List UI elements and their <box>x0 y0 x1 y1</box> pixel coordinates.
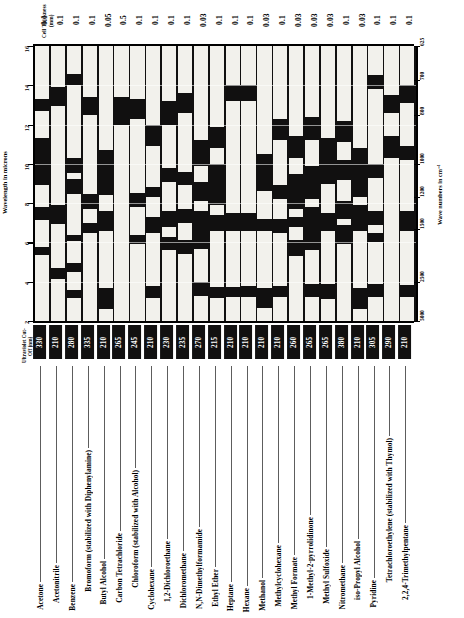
transmission-band <box>305 250 319 283</box>
transmission-band <box>114 46 128 97</box>
cell-thickness-value: 0.1 <box>65 1 81 39</box>
cell-thickness-value: 0.05 <box>97 1 113 39</box>
transmission-band <box>257 46 271 154</box>
transmission-band <box>83 233 97 321</box>
solvent-name: Heptane <box>226 584 235 611</box>
solvent-name: iso-Propyl Alcohol <box>353 541 362 600</box>
leader-line <box>215 366 216 567</box>
transmission-band <box>162 182 176 211</box>
transmission-band <box>400 46 414 85</box>
uv-cutoff-value: 210 <box>144 325 157 359</box>
solvent-name: Pyridine <box>369 580 378 608</box>
cell-thickness-value: 0.1 <box>382 1 398 39</box>
transmission-band <box>353 46 367 148</box>
solvent-column <box>321 46 335 321</box>
transmission-band <box>67 194 81 234</box>
solvent-column <box>241 46 255 321</box>
leader-line <box>183 366 184 551</box>
uv-cutoff-value: 215 <box>208 325 221 359</box>
transmission-band <box>384 46 398 95</box>
transmission-band <box>210 205 224 215</box>
uv-cutoff-value: 330 <box>33 325 46 359</box>
transmission-band <box>273 233 287 286</box>
solvent-name-list: AcetoneAcetonitrileBenzeneBromoform (sta… <box>0 366 464 618</box>
leader-line <box>104 366 105 559</box>
wavelength-tick-label: 16 <box>23 46 30 52</box>
transmission-band <box>99 309 113 321</box>
cell-thickness-value: 0.03 <box>319 1 335 39</box>
transmission-band <box>321 231 335 284</box>
leader-line <box>40 366 41 582</box>
transmission-band <box>384 158 398 321</box>
transmission-band <box>241 231 255 286</box>
uv-cutoff-value: 270 <box>192 325 205 359</box>
cell-thickness-value: 0.1 <box>398 1 414 39</box>
leader-line <box>294 366 295 555</box>
cell-thickness-value: 0.1 <box>208 1 224 39</box>
transmission-band <box>305 46 319 117</box>
transmission-band <box>241 297 255 321</box>
solvent-column <box>35 46 49 321</box>
leader-line <box>310 366 311 515</box>
solvent-column <box>114 46 128 321</box>
transmission-band <box>257 231 271 288</box>
leader-line <box>231 366 232 582</box>
transmission-band <box>337 219 351 225</box>
solvent-column <box>83 46 97 321</box>
transmission-band <box>99 195 113 211</box>
transmission-band <box>146 233 160 286</box>
transmission-plot <box>33 46 418 321</box>
cell-thickness-value: 0.03 <box>303 1 319 39</box>
solvent-name: Bromoform (stabilized with Diphenylamine… <box>84 450 93 592</box>
transmission-band <box>130 207 144 235</box>
cell-thickness-value: 0.1 <box>160 1 176 39</box>
transmission-band <box>162 227 176 237</box>
transmission-band <box>35 111 49 139</box>
solvent-name: Hexane <box>242 588 251 612</box>
uv-cutoff-row: 3302102803352102652452102302352702152102… <box>0 325 464 365</box>
solvent-column <box>210 46 224 321</box>
wavelength-tick-label: 14 <box>23 85 30 91</box>
cell-thickness-value: 0.1 <box>176 1 192 39</box>
uv-cutoff-value: 210 <box>49 325 62 359</box>
transmission-band <box>289 158 303 174</box>
wavenumber-tick-label: 800 <box>419 107 425 115</box>
solvent-name: Acetone <box>36 584 45 610</box>
wavenumber-tick <box>414 229 420 230</box>
transmission-band <box>146 146 160 187</box>
solvent-column <box>368 46 382 321</box>
uv-cutoff-value: 245 <box>128 325 141 359</box>
leader-line <box>247 366 248 586</box>
leader-line <box>135 366 136 468</box>
transmission-band <box>130 119 144 194</box>
cell-thickness-value: 0.03 <box>192 1 208 39</box>
transmission-band <box>210 148 224 164</box>
uv-cutoff-value: 230 <box>160 325 173 359</box>
transmission-band <box>162 125 176 168</box>
transmission-band <box>337 46 351 121</box>
solvent-name: 2,2,4-Trimethylpentane <box>401 525 410 600</box>
leader-line <box>358 366 359 539</box>
wavenumber-tick-label: 1200 <box>419 186 425 197</box>
transmission-band <box>273 140 287 185</box>
solvent-name: Methanol <box>258 580 267 611</box>
solvent-column <box>99 46 113 321</box>
transmission-band <box>35 255 49 321</box>
transmission-band <box>210 298 224 321</box>
solvent-column <box>289 46 303 321</box>
leader-line <box>262 366 263 578</box>
wavenumber-tick-label: 1500 <box>419 219 425 230</box>
transmission-band <box>289 256 303 321</box>
solvent-name: Methyl Sulfoxide <box>322 549 331 604</box>
cell-thickness-value: 0.5 <box>112 1 128 39</box>
transmission-band <box>368 89 382 164</box>
transmission-band <box>67 272 81 290</box>
uv-cutoff-value: 305 <box>366 325 379 359</box>
transmission-band <box>146 46 160 125</box>
transmission-band <box>289 209 303 217</box>
transmission-band <box>400 231 414 285</box>
cell-thickness-value: 0.03 <box>351 1 367 39</box>
solvent-column <box>226 46 240 321</box>
transmission-band <box>368 297 382 321</box>
transmission-band <box>257 308 271 321</box>
